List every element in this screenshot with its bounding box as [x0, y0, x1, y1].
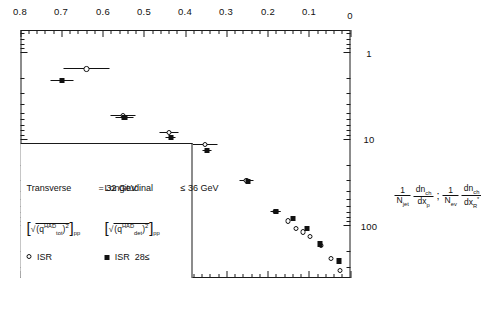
y-tick-minor: [346, 125, 350, 126]
data-point-open-circle: [83, 66, 88, 71]
legend-entry-isr-open[interactable]: ISR: [26, 252, 51, 262]
x-tick-major: [102, 30, 103, 37]
y-title-term2-den: dxR*: [461, 196, 481, 209]
data-point-filled-square: [59, 78, 64, 83]
x-tick-minor: [201, 274, 202, 278]
x-tick-minor: [317, 30, 318, 34]
x-tick-minor: [28, 30, 29, 34]
y-tick-minor: [20, 125, 24, 126]
y-title-N2-sub: ev: [450, 200, 456, 206]
y-title-separator: ;: [436, 189, 439, 201]
y-title-term1-den: dxp: [413, 196, 433, 207]
legend-q-sub-1: tot: [56, 230, 62, 236]
y-title-term2-num: dnch: [461, 184, 481, 196]
data-point-filled-square: [273, 209, 278, 214]
y-tick-minor: [346, 180, 350, 181]
bracket-close-2: ]: [149, 219, 153, 236]
y-tick-minor: [20, 39, 24, 40]
x-tick-minor: [127, 30, 128, 34]
y-tick-minor: [346, 135, 350, 136]
y-title-N1-sub: jet: [402, 200, 408, 206]
x-tick-minor: [300, 30, 301, 34]
y-axis-tick-label: 1: [366, 47, 371, 58]
legend-kin-name-1: Transverse: [26, 183, 71, 193]
y-title-N1: N: [396, 195, 402, 205]
y-title-dx2: dx: [463, 196, 472, 206]
x-tick-minor: [193, 30, 194, 34]
y-tick-minor: [346, 221, 350, 222]
x-tick-major: [267, 30, 268, 37]
y-title-dx2-sup: *: [477, 196, 479, 202]
y-axis-tick-label: 10: [363, 134, 374, 145]
x-tick-minor: [176, 30, 177, 34]
x-tick-minor: [110, 30, 111, 34]
y-tick-minor: [346, 267, 350, 268]
y-tick-minor: [346, 93, 350, 94]
x-tick-minor: [209, 30, 210, 34]
legend-marker-filled-square: [104, 255, 109, 260]
legend-q-sub-2: det: [134, 230, 142, 236]
y-title-term1-fraction: dnch dxp: [413, 185, 433, 208]
y-tick-minor: [20, 93, 24, 94]
y-title-term1-pre-den: Njet: [394, 196, 410, 207]
y-title-dx1-sub: p: [426, 201, 429, 207]
y-tick-minor: [346, 130, 350, 131]
y-title-term2-pre-den: Nev: [442, 196, 458, 207]
legend-formula-filled: [√(qHADdet)2]pp: [104, 219, 159, 236]
y-title-dx2-sub: R: [472, 202, 476, 208]
y-tick-minor: [20, 135, 24, 136]
legend-pp-1: pp: [73, 230, 79, 236]
legend-label-isr-filled: ISR: [114, 252, 129, 262]
x-tick-minor: [292, 30, 293, 34]
x-tick-minor: [234, 274, 235, 278]
x-tick-minor: [275, 30, 276, 34]
y-tick-minor: [20, 130, 24, 131]
data-point-filled-square: [290, 216, 295, 221]
legend-q-term-2: (qHADdet)2: [113, 223, 149, 234]
data-point-filled-square: [204, 148, 209, 153]
x-axis-tick-label: 0.5: [136, 6, 150, 17]
legend-rel-2: ≤ 36 GeV: [180, 183, 218, 193]
x-tick-major: [267, 271, 268, 278]
legend-q-pow-1: 2: [65, 223, 68, 229]
x-tick-minor: [284, 30, 285, 34]
x-tick-minor: [341, 30, 342, 34]
y-tick-minor: [346, 165, 350, 166]
x-tick-minor: [77, 30, 78, 34]
x-tick-major: [226, 271, 227, 278]
legend-marker-open-circle: [26, 254, 31, 259]
y-tick-minor: [346, 278, 350, 279]
x-tick-minor: [94, 30, 95, 34]
radical-icon-1: √: [30, 224, 35, 234]
y-tick-major: [343, 52, 350, 53]
y-tick-minor: [346, 39, 350, 40]
x-tick-minor: [251, 274, 252, 278]
y-title-N2: N: [444, 195, 450, 205]
y-tick-minor: [346, 217, 350, 218]
x-axis-tick-label: 0.2: [260, 6, 274, 17]
x-tick-major: [308, 271, 309, 278]
legend-entry-isr-filled[interactable]: ISR 28≤: [104, 252, 149, 262]
x-tick-minor: [69, 30, 70, 34]
data-point-filled-square: [317, 241, 322, 246]
y-title-term2-fraction: dnch dxR*: [461, 184, 481, 208]
data-point-filled-square: [245, 179, 250, 184]
y-tick-minor: [346, 33, 350, 34]
x-tick-minor: [218, 30, 219, 34]
y-title-term1-num: dnch: [413, 185, 433, 197]
x-tick-minor: [275, 274, 276, 278]
legend-q-sup-1: HAD: [43, 223, 55, 229]
x-axis-tick-label: 0: [347, 10, 352, 21]
x-tick-minor: [317, 274, 318, 278]
y-title-dn2: dn: [463, 183, 472, 193]
x-tick-minor: [119, 30, 120, 34]
y-tick-minor: [20, 78, 24, 79]
legend-prefix-rel: ≤: [144, 252, 149, 262]
y-tick-minor: [346, 113, 350, 114]
x-tick-minor: [234, 30, 235, 34]
x-tick-minor: [333, 274, 334, 278]
x-tick-minor: [135, 30, 136, 34]
x-tick-minor: [160, 30, 161, 34]
data-point-filled-square: [336, 258, 341, 263]
y-tick-minor: [346, 206, 350, 207]
